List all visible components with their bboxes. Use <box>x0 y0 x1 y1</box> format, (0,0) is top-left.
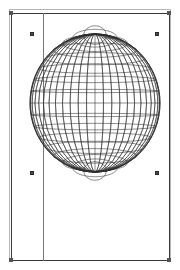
nub-top-right[interactable] <box>167 11 171 15</box>
selection-handle-top-right[interactable] <box>155 32 159 36</box>
selection-handle-bottom-right[interactable] <box>155 171 159 175</box>
selection-handle-top-left[interactable] <box>30 32 34 36</box>
page-frame[interactable] <box>11 13 170 261</box>
vertical-guide-line[interactable] <box>43 13 44 261</box>
nub-bottom-right[interactable] <box>167 258 171 262</box>
nub-top-left[interactable] <box>9 11 13 15</box>
drawing-canvas[interactable] <box>0 0 180 270</box>
selection-handle-bottom-left[interactable] <box>30 171 34 175</box>
nub-bottom-left[interactable] <box>9 258 13 262</box>
